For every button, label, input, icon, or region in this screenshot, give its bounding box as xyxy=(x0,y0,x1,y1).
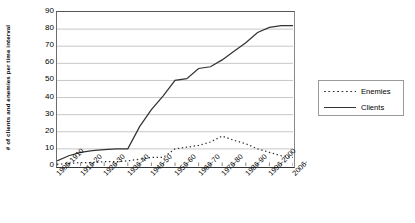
x-axis-tick-labels: 1906-19101916-201926-301936-401946-50195… xyxy=(0,168,415,223)
legend-label-clients: Clients xyxy=(361,103,384,112)
legend-swatch-dotted-icon xyxy=(322,86,358,96)
y-axis-tick-label: 50 xyxy=(32,75,54,83)
y-axis-tick-labels: 0102030405060708090 xyxy=(30,0,54,175)
y-axis-tick-label: 70 xyxy=(32,41,54,49)
y-axis-tick-label: 40 xyxy=(32,93,54,101)
y-axis-tick-label: 20 xyxy=(32,127,54,135)
plot-svg xyxy=(57,12,293,166)
legend-label-enemies: Enemies xyxy=(361,87,391,96)
gridlines xyxy=(57,29,293,149)
y-axis-title-container: # of clients and enemies per time interv… xyxy=(0,0,16,175)
y-axis-tick-label: 80 xyxy=(32,24,54,32)
y-axis-tick-label: 90 xyxy=(32,7,54,15)
legend-swatch-solid-icon xyxy=(322,102,358,112)
legend-item-clients: Clients xyxy=(319,99,405,115)
legend-item-enemies: Enemies xyxy=(319,83,405,99)
line-chart: # of clients and enemies per time interv… xyxy=(0,0,415,223)
chart-legend: Enemies Clients xyxy=(318,80,404,116)
y-axis-tick-label: 30 xyxy=(32,110,54,118)
y-axis-tick-label: 60 xyxy=(32,58,54,66)
y-axis-title: # of clients and enemies per time interv… xyxy=(5,25,12,150)
plot-area xyxy=(56,11,295,168)
y-axis-tick-label: 10 xyxy=(32,144,54,152)
